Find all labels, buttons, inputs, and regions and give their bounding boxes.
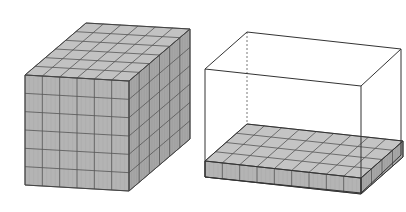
figure-canvas <box>0 0 406 212</box>
base-layer-cubes <box>205 124 403 194</box>
box-with-base-layer <box>205 32 403 194</box>
cube-diagram <box>0 0 406 212</box>
filled-prism <box>25 23 190 191</box>
